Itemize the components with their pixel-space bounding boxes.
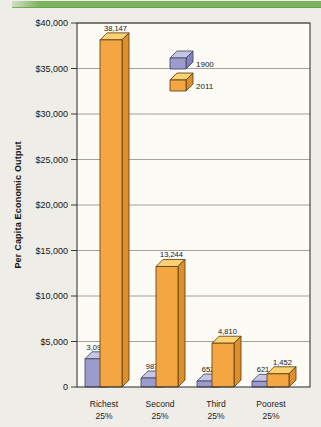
bar-2011-second <box>156 259 185 387</box>
bar-side-face <box>122 33 129 387</box>
y-axis-tick-label: $15,000 <box>35 246 68 256</box>
y-axis-tick-label: $10,000 <box>35 291 68 301</box>
bar-front-face <box>170 80 186 91</box>
y-axis-tick-label: $5,000 <box>40 337 68 347</box>
legend-label-1900: 1900 <box>196 60 214 69</box>
bar-chart: $40,000$35,000$30,000$25,000$20,000$15,0… <box>0 0 321 427</box>
x-axis-label-line2: 25% <box>95 411 112 421</box>
x-axis-label: Poorest <box>256 399 286 409</box>
x-axis-label: Third <box>206 399 226 409</box>
bar-front-face <box>156 266 178 387</box>
bar-front-face <box>267 374 289 387</box>
x-axis-label-line2: 25% <box>207 411 224 421</box>
bar-side-face <box>234 336 241 387</box>
bar-value-label: 1,452 <box>273 358 292 367</box>
bar-front-face <box>100 40 122 387</box>
x-axis-label: Richest <box>90 399 119 409</box>
y-axis-tick-label: $35,000 <box>35 64 68 74</box>
y-axis-tick-label: $25,000 <box>35 155 68 165</box>
legend-label-2011: 2011 <box>196 82 214 91</box>
bar-front-face <box>170 58 186 69</box>
bar-value-label: 38,147 <box>104 24 127 33</box>
x-axis-label-line2: 25% <box>151 411 168 421</box>
y-axis-tick-label: $30,000 <box>35 109 68 119</box>
bar-2011-poorest <box>267 367 296 387</box>
y-axis-tick-label: $20,000 <box>35 200 68 210</box>
y-axis-tick-label: $40,000 <box>35 18 68 28</box>
bar-2011-third <box>212 336 241 387</box>
x-axis-label-line2: 25% <box>262 411 279 421</box>
bar-value-label: 4,810 <box>218 327 237 336</box>
y-axis-tick-label: 0 <box>63 382 68 392</box>
bar-side-face <box>178 259 185 387</box>
bar-front-face <box>212 343 234 387</box>
bar-value-label: 13,244 <box>160 250 183 259</box>
bar-2011-richest <box>100 33 129 387</box>
x-axis-label: Second <box>146 399 175 409</box>
